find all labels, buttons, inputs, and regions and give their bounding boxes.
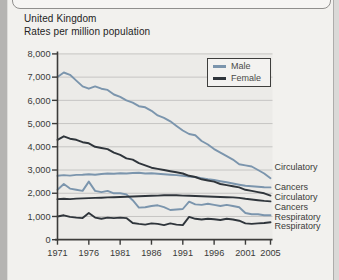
page-right-edge: [333, 0, 339, 280]
y-tick-label-1,000: 1,000: [28, 212, 51, 222]
female-line-swatch: [213, 77, 226, 80]
x-tick-label-1996: 1996: [204, 248, 224, 258]
series-label-female-respiratory: Respiratory: [275, 221, 322, 231]
series-label-female-circulatory: Circulatory: [275, 192, 319, 202]
x-tick-label-1986: 1986: [141, 248, 161, 258]
x-tick-label-2001: 2001: [235, 248, 255, 258]
mortality-rates-chart: 01,0002,0003,0004,0005,0006,0007,0008,00…: [0, 0, 339, 280]
y-tick-label-3,000: 3,000: [28, 165, 51, 175]
x-tick-label-1981: 1981: [110, 248, 130, 258]
y-tick-label-7,000: 7,000: [28, 72, 51, 82]
series-label-male-circulatory: Circulatory: [275, 162, 319, 172]
x-tick-label-1971: 1971: [47, 248, 67, 258]
legend-item-male: Male: [213, 62, 270, 71]
series-label-female-cancers: Cancers: [275, 202, 309, 212]
y-tick-label-6,000: 6,000: [28, 96, 51, 106]
legend-label-female: Female: [231, 74, 261, 83]
series-label-male-cancers: Cancers: [275, 182, 309, 192]
legend-label-male: Male: [231, 62, 251, 71]
x-tick-label-1976: 1976: [79, 248, 99, 258]
x-tick-label-2005: 2005: [260, 248, 280, 258]
y-tick-label-0: 0: [45, 235, 50, 245]
legend-item-female: Female: [213, 74, 270, 83]
x-tick-label-1991: 1991: [173, 248, 193, 258]
male-line-swatch: [213, 65, 226, 68]
y-tick-label-2,000: 2,000: [28, 188, 51, 198]
y-tick-label-4,000: 4,000: [28, 142, 51, 152]
page-left-edge: [0, 0, 8, 280]
page: United Kingdom Rates per million populat…: [0, 0, 339, 280]
legend-box: Male Female: [207, 58, 271, 87]
y-tick-label-8,000: 8,000: [28, 49, 51, 59]
y-tick-label-5,000: 5,000: [28, 119, 51, 129]
